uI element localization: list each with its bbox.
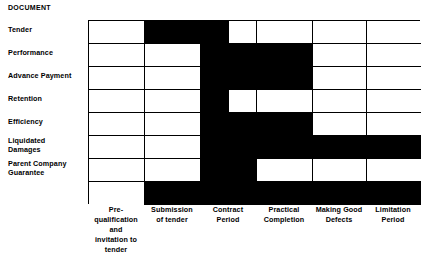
matrix-cell bbox=[367, 44, 421, 67]
matrix-cell bbox=[313, 182, 367, 205]
matrix-cell bbox=[89, 182, 145, 205]
matrix-cell bbox=[313, 21, 367, 44]
matrix-cell bbox=[229, 67, 257, 90]
column-header-submission-of-tender: Submissionof tender bbox=[144, 205, 200, 225]
matrix-cell bbox=[145, 90, 201, 113]
matrix-cell bbox=[145, 136, 201, 159]
matrix-cell bbox=[89, 113, 145, 136]
matrix-cell bbox=[229, 136, 257, 159]
matrix-cell bbox=[145, 159, 201, 182]
matrix-cell bbox=[257, 44, 313, 67]
matrix-cell bbox=[201, 182, 229, 205]
matrix-cell bbox=[145, 113, 201, 136]
matrix-cell bbox=[257, 182, 313, 205]
matrix-cell bbox=[367, 113, 421, 136]
matrix-cell bbox=[257, 21, 313, 44]
column-header-limitation-period: LimitationPeriod bbox=[366, 205, 420, 225]
matrix-cell bbox=[89, 21, 145, 44]
matrix-cell bbox=[229, 44, 257, 67]
row-label-parent-company-guarantee: Parent CompanyGuarantee bbox=[8, 159, 86, 178]
row-label-advance-payment: Advance Payment bbox=[8, 71, 86, 81]
matrix-cell bbox=[229, 90, 257, 113]
matrix-cell bbox=[313, 113, 367, 136]
matrix-cell bbox=[89, 136, 145, 159]
row-label-efficiency: Efficiency bbox=[8, 117, 86, 127]
column-header-practical-completion: PracticalCompletion bbox=[256, 205, 312, 225]
matrix-cell bbox=[229, 182, 257, 205]
matrix-cell bbox=[201, 159, 229, 182]
matrix-cell bbox=[313, 90, 367, 113]
matrix-cell bbox=[367, 159, 421, 182]
matrix-cell bbox=[313, 44, 367, 67]
document-validity-matrix-figure: DOCUMENT TenderPerformanceAdvance Paymen… bbox=[0, 0, 428, 264]
matrix-cell bbox=[367, 21, 421, 44]
row-label-liquidated-damages: LiquidatedDamages bbox=[8, 136, 86, 155]
matrix-cell bbox=[257, 90, 313, 113]
row-label-performance: Performance bbox=[8, 48, 86, 58]
matrix-cell bbox=[145, 44, 201, 67]
matrix-cell bbox=[201, 113, 229, 136]
figure-caption: DOCUMENT bbox=[8, 4, 51, 11]
matrix-cell bbox=[89, 159, 145, 182]
matrix-cell bbox=[145, 182, 201, 205]
row-label-column: TenderPerformanceAdvance PaymentRetentio… bbox=[8, 20, 86, 204]
matrix-cell bbox=[145, 21, 201, 44]
matrix-cell bbox=[257, 136, 313, 159]
matrix-cell bbox=[367, 136, 421, 159]
matrix-cell bbox=[201, 21, 229, 44]
matrix-cell bbox=[145, 67, 201, 90]
column-header-row: Pre-qualificationandinvitation totenderS… bbox=[88, 205, 420, 261]
matrix-cell bbox=[257, 67, 313, 90]
matrix-cell bbox=[313, 159, 367, 182]
matrix-cell bbox=[201, 90, 229, 113]
column-header-contract-period: ContractPeriod bbox=[200, 205, 256, 225]
matrix-cell bbox=[313, 67, 367, 90]
matrix-cell bbox=[229, 21, 257, 44]
matrix-cell bbox=[89, 67, 145, 90]
column-header-making-good-defects: Making GoodDefects bbox=[312, 205, 366, 225]
matrix-cell bbox=[257, 159, 313, 182]
matrix-cell bbox=[201, 136, 229, 159]
matrix-cell bbox=[313, 136, 367, 159]
matrix-cell bbox=[229, 159, 257, 182]
matrix-cell bbox=[89, 90, 145, 113]
matrix-cell bbox=[367, 67, 421, 90]
matrix-cell bbox=[367, 90, 421, 113]
matrix-cell bbox=[257, 113, 313, 136]
matrix-cell bbox=[367, 182, 421, 205]
matrix-grid bbox=[88, 20, 420, 204]
row-label-retention: Retention bbox=[8, 94, 86, 104]
matrix-cell bbox=[201, 67, 229, 90]
matrix-cell bbox=[201, 44, 229, 67]
matrix-cell bbox=[89, 44, 145, 67]
column-header-pre-qualification: Pre-qualificationandinvitation totender bbox=[88, 205, 144, 255]
matrix-cell bbox=[229, 113, 257, 136]
row-label-tender: Tender bbox=[8, 25, 86, 35]
